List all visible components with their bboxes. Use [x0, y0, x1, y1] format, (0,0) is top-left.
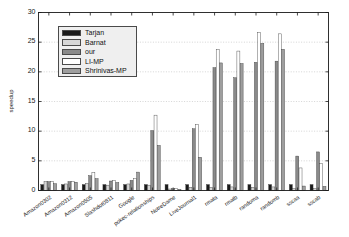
y-axis-tick-label: 20	[16, 67, 36, 74]
bar	[106, 185, 109, 190]
bar	[227, 185, 230, 191]
bar	[299, 168, 302, 191]
bar	[254, 62, 257, 190]
chart-figure: 051015202530speedupAmazon0302Amazon0312A…	[0, 0, 349, 237]
bar	[154, 115, 157, 190]
bar	[165, 185, 168, 191]
legend-item: Tarjan	[59, 28, 136, 38]
bar	[275, 61, 278, 190]
bar	[127, 184, 130, 191]
bar	[317, 152, 320, 191]
bar	[251, 187, 254, 190]
bar	[92, 173, 95, 191]
bar	[269, 185, 272, 191]
bar	[44, 182, 47, 191]
legend-color-swatch	[62, 39, 81, 46]
legend-item: LI-MP	[59, 57, 136, 67]
bar	[74, 182, 77, 190]
legend-color-swatch	[62, 58, 81, 65]
bar	[296, 156, 299, 190]
bar	[144, 185, 147, 191]
legend-item: Shrinivas-MP	[59, 66, 136, 76]
bar	[213, 68, 216, 191]
y-axis-title: speedup	[8, 81, 14, 121]
y-axis-tick-label: 10	[16, 126, 36, 133]
bar	[192, 129, 195, 191]
bar	[310, 185, 313, 191]
legend-color-swatch	[62, 30, 81, 37]
bar	[65, 184, 68, 191]
bar	[248, 185, 251, 191]
legend-item: Barnat	[59, 38, 136, 48]
bar	[282, 49, 285, 190]
legend-item-label: Barnat	[85, 39, 106, 46]
legend-item-label: our	[85, 48, 95, 55]
y-axis-tick-label: 15	[16, 97, 36, 104]
legend-color-swatch	[62, 49, 81, 56]
legend-item-label: Tarjan	[85, 29, 104, 36]
legend-item-label: LI-MP	[85, 58, 104, 65]
bar	[206, 185, 209, 191]
bar	[41, 185, 44, 191]
bar	[195, 125, 198, 191]
legend-color-swatch	[62, 68, 81, 75]
bar	[240, 64, 243, 191]
bar	[199, 157, 202, 190]
bar	[302, 186, 305, 190]
bar	[237, 51, 240, 190]
bar	[216, 49, 219, 190]
bar	[85, 183, 88, 190]
bar	[289, 185, 292, 191]
bar	[151, 131, 154, 191]
bar	[61, 185, 64, 191]
bar	[113, 180, 116, 190]
bar	[210, 187, 213, 190]
bar	[124, 185, 127, 191]
bar	[82, 185, 85, 191]
y-axis-tick-label: 5	[16, 156, 36, 163]
bar	[148, 185, 151, 190]
bar	[261, 43, 264, 190]
chart-legend: TarjanBarnatourLI-MPShrinivas-MP	[58, 26, 137, 77]
y-axis-tick-label: 30	[16, 8, 36, 15]
bar	[320, 163, 323, 190]
bar	[54, 184, 57, 191]
legend-item-label: Shrinivas-MP	[85, 67, 127, 74]
bar	[272, 187, 275, 191]
bar	[95, 179, 98, 191]
bar	[157, 145, 160, 190]
bar	[103, 185, 106, 191]
bar	[137, 172, 140, 190]
bar	[71, 182, 74, 191]
bar	[278, 34, 281, 191]
bar	[234, 78, 237, 191]
bar	[258, 33, 261, 191]
bar	[219, 63, 222, 191]
bar	[133, 179, 136, 191]
bar	[186, 185, 189, 191]
y-axis-tick-label: 0	[16, 186, 36, 193]
bar	[230, 187, 233, 191]
bar	[50, 181, 53, 190]
bar	[116, 182, 119, 190]
bar	[189, 187, 192, 190]
legend-item: our	[59, 47, 136, 57]
bar	[323, 186, 326, 190]
y-axis-tick-label: 25	[16, 37, 36, 44]
